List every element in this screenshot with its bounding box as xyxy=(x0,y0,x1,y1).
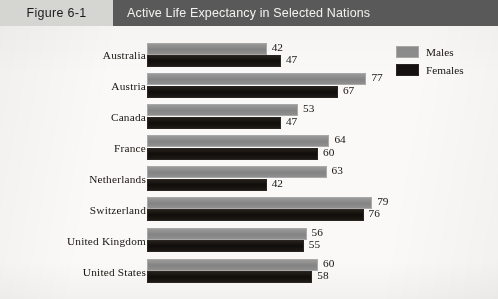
legend-swatch-males xyxy=(396,46,419,58)
bar-pair: 7976 xyxy=(147,194,498,225)
bar-female xyxy=(147,271,312,283)
bar-value-female: 42 xyxy=(272,177,283,189)
bar-value-female: 67 xyxy=(343,84,354,96)
figure-header: Figure 6-1 Active Life Expectancy in Sel… xyxy=(0,0,498,26)
figure-title-band: Active Life Expectancy in Selected Natio… xyxy=(113,0,498,26)
category-label: United States xyxy=(0,266,146,278)
chart-plot-area: Australia4247Austria7767Canada5347France… xyxy=(0,26,498,299)
bar-row: Canada5347 xyxy=(0,102,498,133)
bar-row: United States6058 xyxy=(0,256,498,287)
bar-female xyxy=(147,209,364,221)
bar-value-female: 58 xyxy=(317,269,328,281)
bar-pair: 5347 xyxy=(147,102,498,133)
legend-item: Males xyxy=(396,44,492,59)
bar-pair: 6058 xyxy=(147,256,498,287)
bar-male xyxy=(147,228,307,240)
bar-value-female: 47 xyxy=(286,53,297,65)
category-label: Australia xyxy=(0,49,146,61)
bar-male xyxy=(147,104,298,116)
chart-legend: MalesFemales xyxy=(396,44,492,80)
bar-female xyxy=(147,148,318,160)
bar-male xyxy=(147,135,329,147)
bar-row: Netherlands6342 xyxy=(0,164,498,195)
bar-male xyxy=(147,73,366,85)
legend-item: Females xyxy=(396,62,492,77)
bar-value-female: 55 xyxy=(309,238,320,250)
bar-male xyxy=(147,259,318,271)
legend-swatch-females xyxy=(396,64,419,76)
figure-number-box: Figure 6-1 xyxy=(0,0,113,26)
bar-row: Switzerland7976 xyxy=(0,194,498,225)
bar-value-female: 60 xyxy=(323,146,334,158)
bar-female xyxy=(147,179,267,191)
bar-value-male: 60 xyxy=(323,257,334,269)
bar-value-female: 76 xyxy=(369,207,380,219)
legend-label: Females xyxy=(426,64,464,76)
bar-female xyxy=(147,117,281,129)
bar-value-male: 42 xyxy=(272,41,283,53)
figure-number-label: Figure 6-1 xyxy=(27,6,87,20)
category-label: Switzerland xyxy=(0,204,146,216)
category-label: Canada xyxy=(0,111,146,123)
figure-title: Active Life Expectancy in Selected Natio… xyxy=(127,6,370,20)
bar-female xyxy=(147,86,338,98)
bar-value-male: 64 xyxy=(334,133,345,145)
legend-label: Males xyxy=(426,46,454,58)
bar-pair: 5655 xyxy=(147,225,498,256)
bar-row: United Kingdom5655 xyxy=(0,225,498,256)
bar-pair: 6342 xyxy=(147,164,498,195)
bar-value-male: 53 xyxy=(303,102,314,114)
bar-value-male: 79 xyxy=(377,195,388,207)
bar-female xyxy=(147,240,304,252)
bar-female xyxy=(147,55,281,67)
category-label: United Kingdom xyxy=(0,235,146,247)
bar-male xyxy=(147,166,327,178)
figure-page: Figure 6-1 Active Life Expectancy in Sel… xyxy=(0,0,498,299)
bar-value-male: 63 xyxy=(332,164,343,176)
bar-pair: 6460 xyxy=(147,133,498,164)
bar-male xyxy=(147,43,267,55)
bar-row: France6460 xyxy=(0,133,498,164)
category-label: Netherlands xyxy=(0,173,146,185)
category-label: Austria xyxy=(0,80,146,92)
bar-value-female: 47 xyxy=(286,115,297,127)
category-label: France xyxy=(0,142,146,154)
bar-male xyxy=(147,197,372,209)
bar-value-male: 77 xyxy=(371,71,382,83)
bar-value-male: 56 xyxy=(312,226,323,238)
